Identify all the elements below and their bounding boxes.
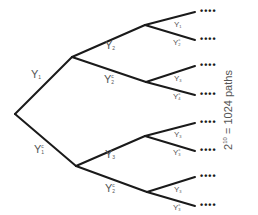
continuation-dots: •••• (200, 35, 217, 44)
continuation-dots: •••• (200, 201, 217, 210)
continuation-dots: •••• (200, 172, 217, 181)
level3-branch-label: Y3 (174, 179, 182, 195)
continuation-dots: •••• (200, 118, 217, 127)
level3-branch-label: Y4c (173, 86, 181, 102)
level2-branch-label: Y2c (105, 179, 115, 195)
tree-diagram (0, 0, 258, 215)
level3-edge-2 (146, 66, 195, 82)
level3-branch-label: Y1 (174, 14, 182, 30)
level3-edge-3 (146, 82, 195, 95)
level1-branch-label: Y1 (31, 65, 41, 81)
level3-edge-5 (145, 136, 195, 151)
paths-text: = 1024 paths (222, 70, 234, 137)
level3-branch-label: Y2c (173, 32, 181, 48)
level3-edge-7 (147, 192, 195, 206)
paths-count-note: 210 = 1024 paths (222, 70, 234, 150)
level2-branch-label: Y2c (104, 70, 114, 86)
continuation-dots: •••• (200, 90, 217, 99)
level3-edge-1 (145, 25, 195, 40)
continuation-dots: •••• (200, 7, 217, 16)
continuation-dots: •••• (200, 146, 217, 155)
level3-edge-6 (147, 177, 195, 192)
level3-edge-0 (145, 12, 195, 25)
level1-edge-1 (15, 114, 76, 166)
level3-branch-label: Y3 (174, 124, 182, 140)
level3-branch-label: Y3c (173, 142, 181, 158)
paths-base: 2 (222, 144, 234, 150)
level3-branch-label: Y3 (174, 68, 182, 84)
level1-branch-label: Y1c (34, 140, 44, 156)
level2-branch-label: Y2 (105, 36, 115, 52)
level1-edge-0 (15, 57, 72, 114)
continuation-dots: •••• (200, 61, 217, 70)
level3-branch-label: Y3c (173, 197, 181, 213)
level2-branch-label: Y3 (105, 145, 115, 161)
level3-edge-4 (145, 123, 195, 136)
paths-exponent: 10 (222, 137, 228, 144)
